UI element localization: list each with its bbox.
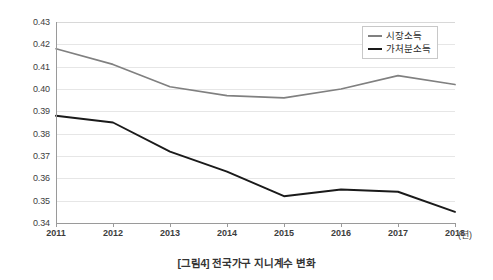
x-tick-label-2011: 2011	[46, 228, 66, 238]
y-tick-label-0.38: 0.38	[33, 129, 50, 139]
y-tick-label-0.36: 0.36	[33, 173, 50, 183]
y-axis-tick-labels: 0.340.350.360.370.380.390.400.410.420.43	[0, 22, 50, 223]
y-tick-label-0.34: 0.34	[33, 218, 50, 228]
y-tick-label-0.37: 0.37	[33, 151, 50, 161]
y-tick-label-0.35: 0.35	[33, 196, 50, 206]
x-tick-label-2016: 2016	[331, 228, 351, 238]
x-tick-mark-2015	[284, 223, 285, 227]
figure-container: 0.340.350.360.370.380.390.400.410.420.43…	[0, 0, 493, 280]
legend-item-가처분소득: 가처분소득	[368, 43, 431, 54]
x-axis-tick-labels: 20112012201320142015201620172018	[56, 228, 456, 244]
x-tick-label-2017: 2017	[388, 228, 408, 238]
x-tick-label-2014: 2014	[217, 228, 237, 238]
x-axis-unit-label: (년)	[458, 228, 472, 241]
x-axis-line	[56, 223, 456, 224]
y-tick-label-0.41: 0.41	[33, 62, 50, 72]
y-tick-label-0.40: 0.40	[33, 84, 50, 94]
series-line-가처분소득	[56, 116, 455, 212]
legend-label: 가처분소득	[386, 43, 431, 54]
y-axis-line	[56, 22, 57, 224]
x-tick-label-2013: 2013	[160, 228, 180, 238]
legend-item-시장소득: 시장소득	[368, 30, 431, 41]
legend-label: 시장소득	[386, 30, 422, 41]
y-tick-label-0.42: 0.42	[33, 39, 50, 49]
x-tick-label-2015: 2015	[274, 228, 294, 238]
y-tick-label-0.43: 0.43	[33, 17, 50, 27]
x-tick-mark-2017	[398, 223, 399, 227]
x-tick-mark-2014	[227, 223, 228, 227]
chart-legend: 시장소득가처분소득	[362, 26, 438, 59]
x-tick-label-2012: 2012	[103, 228, 123, 238]
x-tick-mark-2016	[341, 223, 342, 227]
y-tick-label-0.39: 0.39	[33, 106, 50, 116]
x-tick-mark-2018	[455, 223, 456, 227]
x-tick-mark-2011	[56, 223, 57, 227]
x-tick-mark-2013	[170, 223, 171, 227]
legend-swatch-icon	[368, 35, 382, 37]
figure-caption: [그림4] 전국가구 지니계수 변화	[0, 255, 493, 270]
legend-swatch-icon	[368, 48, 382, 50]
x-tick-mark-2012	[113, 223, 114, 227]
